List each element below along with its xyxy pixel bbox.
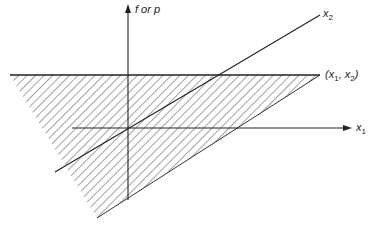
x2-label-sub: 2	[329, 13, 333, 22]
point-label-suffix: )	[355, 68, 359, 80]
x1-axis-label: x1	[356, 121, 366, 136]
vertical-arrow-icon	[125, 4, 131, 13]
vertical-axis-label: f or p	[135, 3, 160, 15]
x1-label-sub: 1	[362, 127, 366, 136]
vertical-axis-label-text: f or p	[135, 3, 160, 15]
x2-axis-label: x2	[323, 7, 333, 22]
shaded-plane-region	[10, 75, 320, 218]
x1-arrow-icon	[343, 125, 352, 131]
point-label-prefix: (x	[325, 68, 334, 80]
diagram-canvas	[0, 0, 376, 225]
point-label: (x1, x2)	[325, 68, 358, 83]
point-label-mid: , x	[339, 68, 351, 80]
